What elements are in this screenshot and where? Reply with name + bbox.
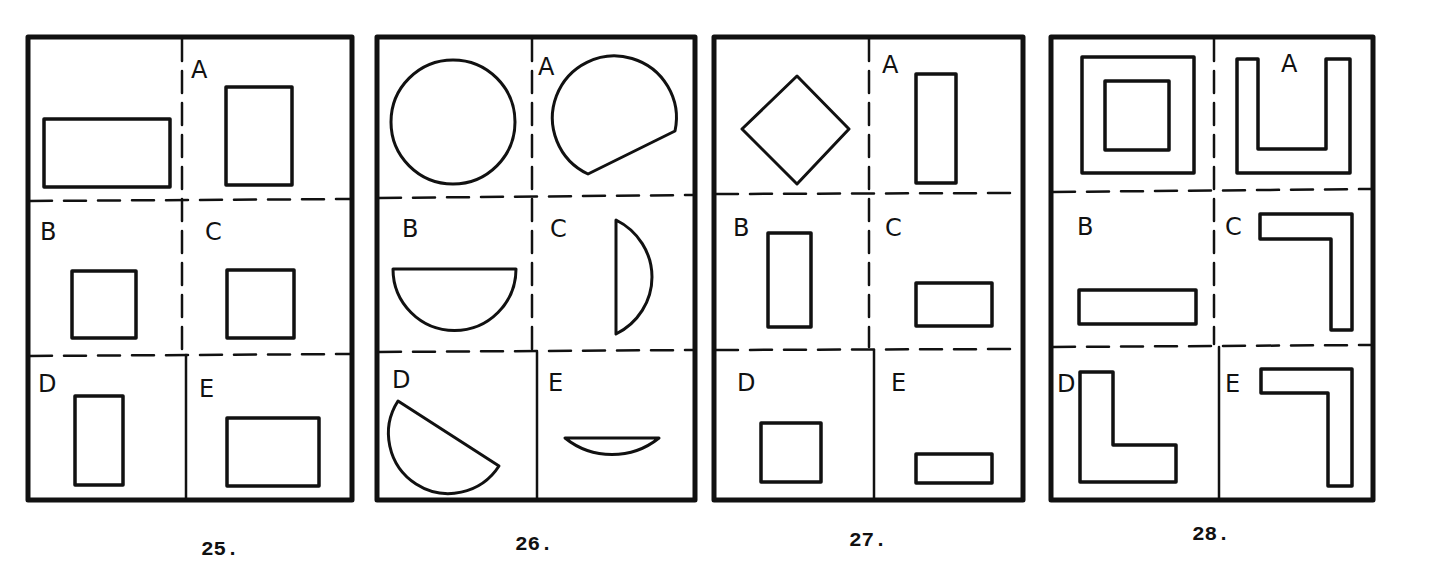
option-d-shape[interactable]: [388, 401, 499, 494]
fold-line: [379, 350, 693, 352]
fold-line: [30, 199, 350, 201]
option-c-label: C: [1225, 213, 1242, 241]
option-d-label: D: [38, 370, 56, 398]
option-a-label: A: [1281, 50, 1298, 78]
fold-line: [716, 349, 1021, 350]
puzzle-25: [28, 37, 352, 500]
fold-line: [1053, 345, 1371, 347]
fold-line: [379, 195, 693, 198]
option-b-label: B: [402, 215, 418, 243]
option-a-shape[interactable]: [226, 87, 292, 185]
fold-line: [1053, 189, 1371, 192]
option-c-label: C: [885, 214, 902, 242]
option-c-shape[interactable]: [616, 220, 652, 334]
option-c-label: C: [550, 215, 567, 243]
option-b-label: B: [40, 218, 56, 246]
option-e-label: E: [548, 369, 563, 397]
puzzle-number-28: 28.: [1192, 523, 1230, 546]
option-e-shape[interactable]: [916, 454, 992, 483]
option-e-label: E: [891, 369, 906, 397]
option-b-shape[interactable]: [72, 271, 136, 338]
option-d-label: D: [737, 369, 755, 397]
option-d-shape[interactable]: [75, 396, 123, 485]
option-d-label: D: [1057, 370, 1075, 398]
target-frame-outer: [1082, 57, 1194, 173]
target-diamond: [742, 76, 849, 184]
option-b-label: B: [1077, 213, 1093, 241]
option-c-shape[interactable]: [227, 270, 294, 338]
option-e-label: E: [199, 375, 214, 403]
option-e-shape[interactable]: [565, 438, 659, 455]
option-e-shape[interactable]: [227, 418, 319, 486]
option-d-shape[interactable]: [1080, 372, 1176, 482]
option-c-shape[interactable]: [916, 283, 992, 326]
option-d-label: D: [392, 366, 410, 394]
option-b-shape[interactable]: [768, 233, 811, 327]
option-b-shape[interactable]: [1079, 290, 1196, 324]
option-c-shape[interactable]: [1260, 214, 1352, 330]
option-b-label: B: [733, 214, 749, 242]
puzzle-number-26: 26.: [515, 533, 553, 556]
option-a-label: A: [882, 51, 899, 79]
option-b-shape[interactable]: [393, 269, 516, 330]
target-rectangle: [44, 119, 170, 187]
puzzle-sheet: A B C D E A B C D E A B C D E A B C D E: [0, 0, 1454, 588]
puzzle-number-27: 27.: [849, 529, 887, 552]
option-c-label: C: [205, 218, 222, 246]
option-a-label: A: [538, 53, 555, 81]
puzzle-28: [1051, 37, 1373, 500]
puzzle-number-25: 25.: [201, 538, 239, 561]
fold-line: [30, 354, 350, 356]
target-circle: [391, 60, 515, 184]
puzzle-26: [377, 37, 695, 500]
option-e-shape[interactable]: [1261, 369, 1352, 486]
option-e-label: E: [1225, 370, 1240, 398]
puzzle-27: [714, 37, 1023, 500]
option-a-shape[interactable]: [552, 56, 676, 174]
option-d-shape[interactable]: [761, 423, 821, 482]
fold-line: [716, 193, 1021, 194]
option-a-label: A: [191, 56, 208, 84]
option-a-shape[interactable]: [916, 74, 956, 183]
target-frame-inner: [1105, 81, 1169, 150]
